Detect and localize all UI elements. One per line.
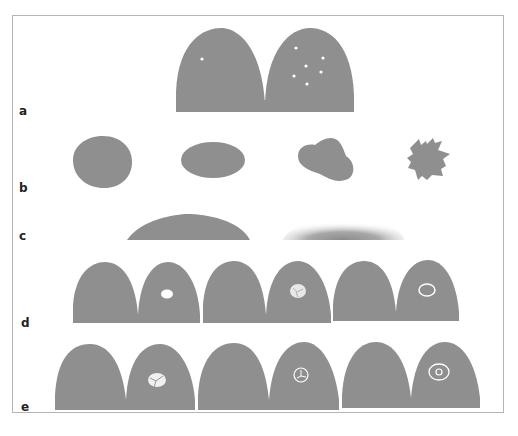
lobulated-shape [298,138,353,181]
row-d [73,260,459,323]
round-shape [73,136,132,188]
white-oval [161,290,173,299]
row-d-lesions [161,284,435,299]
oval-shape [181,142,245,178]
sharp-edge-dome [127,214,250,240]
diagram-canvas [0,0,518,436]
blurred-edge-dome [282,212,405,240]
dome-left [176,28,265,112]
row-e [55,342,480,410]
spiculated-shape [407,138,450,180]
dome-right [265,28,354,112]
row-a [176,28,354,112]
row-b [73,136,450,188]
row-c [127,212,405,240]
